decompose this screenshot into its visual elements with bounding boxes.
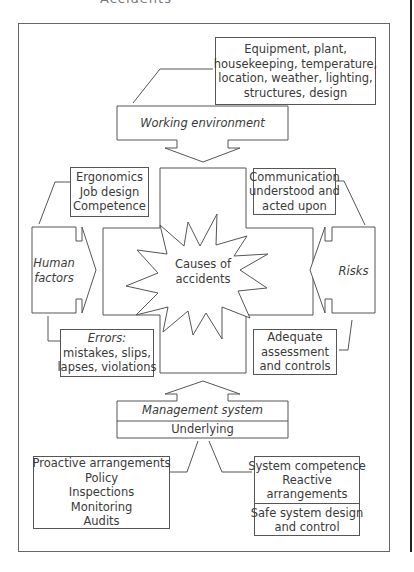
working-environment-label: Working environment [117, 116, 288, 131]
system-competence-section: System competence Reactive arrangements [255, 457, 359, 504]
connector-adequate [339, 320, 352, 350]
proactive-arrangements-box: Proactive arrangements Policy Inspection… [33, 456, 170, 529]
ergonomics-box: Ergonomics Job design Competence [70, 167, 149, 217]
working-environment-arrow [117, 106, 288, 162]
environment-details-box: Equipment, plant, housekeeping, temperat… [215, 37, 376, 105]
management-system-label: Management system [117, 403, 288, 418]
connector-ergonomics [39, 182, 70, 224]
system-competence-box: System competence Reactive arrangements … [254, 456, 360, 536]
communication-box: Communication understood and acted upon [253, 168, 336, 215]
causes-of-accidents-label: Causes of accidents [163, 257, 243, 286]
connector-environment [133, 69, 213, 103]
errors-box: Errors: mistakes, slips, lapses, violati… [60, 329, 154, 377]
risks-label: Risks [332, 264, 375, 279]
connector-system [209, 441, 252, 472]
connector-errors [48, 316, 60, 341]
adequate-assessment-box: Adequate assessment and controls [253, 329, 337, 375]
safe-system-design-section: Safe system design and control [255, 504, 359, 535]
underlying-label: Underlying [117, 422, 288, 437]
human-factors-label: Human factors [32, 256, 76, 285]
connector-proactive [170, 441, 198, 472]
